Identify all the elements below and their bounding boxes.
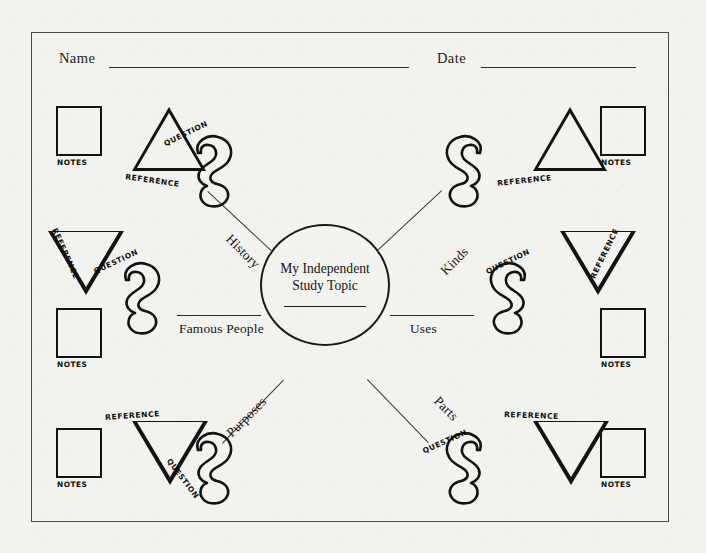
question-shape[interactable]: [112, 258, 164, 336]
branch-label-famous-people: Famous People: [179, 321, 264, 337]
reference-caption: REFERENCE: [105, 409, 160, 422]
question-shape[interactable]: [184, 131, 236, 209]
reference-triangle[interactable]: [533, 107, 607, 171]
reference-caption: REFERENCE: [497, 173, 553, 188]
date-input-rule[interactable]: [481, 67, 636, 68]
question-shape[interactable]: [442, 131, 494, 209]
branch-label-uses: Uses: [410, 321, 437, 337]
notes-box[interactable]: [600, 308, 646, 358]
central-topic-text: My Independent Study Topic: [280, 261, 369, 294]
spoke-kinds: [377, 190, 442, 251]
worksheet-header: Name Date: [32, 33, 668, 79]
name-label: Name: [59, 50, 95, 67]
reference-triangle[interactable]: [533, 421, 609, 485]
worksheet-sheet: Name Date My Independent Study Topic His…: [31, 32, 669, 522]
connector-famous-people: [177, 315, 261, 316]
notes-caption: NOTES: [57, 158, 87, 167]
branch-label-kinds: Kinds: [437, 244, 472, 279]
name-input-rule[interactable]: [109, 67, 409, 68]
central-topic-circle[interactable]: My Independent Study Topic: [260, 224, 390, 346]
notes-caption: NOTES: [57, 480, 87, 489]
notes-box[interactable]: [56, 428, 102, 478]
spoke-parts: [367, 379, 429, 443]
central-topic-blank-line[interactable]: [284, 306, 366, 307]
branch-label-parts: Parts: [430, 393, 461, 424]
notes-caption: NOTES: [601, 360, 631, 369]
notes-caption: NOTES: [57, 360, 87, 369]
reference-caption: REFERENCE: [125, 172, 181, 189]
connector-uses: [390, 315, 474, 316]
notes-box[interactable]: [56, 106, 102, 156]
date-label: Date: [437, 50, 466, 67]
reference-caption: REFERENCE: [504, 410, 559, 421]
notes-box[interactable]: [56, 308, 102, 358]
